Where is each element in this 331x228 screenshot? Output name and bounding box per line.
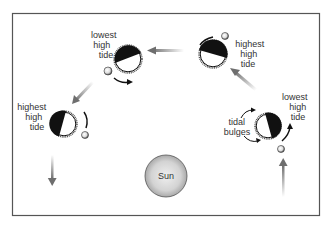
sun: Sun [145, 155, 187, 197]
sun-label: Sun [158, 171, 174, 181]
earth [49, 111, 77, 137]
tides-diagram: Sun [0, 0, 331, 228]
tidal-bulges-label: tidal bulges [224, 117, 251, 137]
moon [104, 67, 112, 75]
earth [114, 45, 142, 73]
moon [278, 146, 285, 153]
moon [222, 33, 229, 40]
earth [255, 113, 282, 139]
diagram-canvas: Sun [0, 0, 331, 228]
moon [82, 132, 89, 139]
